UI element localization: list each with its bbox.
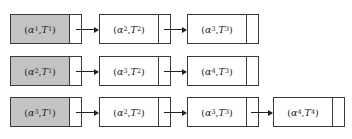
row1-node2: (α2,T2) [99,14,171,44]
row1-node3: (α3,T3) [187,14,259,44]
arrow-icon [76,71,98,72]
node-data: (α2,T1) [11,57,70,85]
node-data: (α2,T2) [100,98,159,126]
node-pointer-field [333,98,344,126]
node-data: (α3,T3) [188,98,247,126]
node-data: (α3,T2) [100,57,159,85]
arrow-icon [251,112,272,113]
row3-node3: (α3,T3) [187,97,259,127]
node-data: (α4,T3) [188,57,247,85]
node-pointer-field [247,57,258,85]
row3-node2: (α2,T2) [99,97,171,127]
arrow-icon [164,29,186,30]
node-pointer-field [247,15,258,43]
row3-node4: (α4,T4) [273,97,345,127]
node-data: (α3,T1) [11,98,70,126]
arrow-icon [76,29,98,30]
arrow-icon [164,112,186,113]
row2-node3: (α4,T3) [187,56,259,86]
arrow-icon [76,112,98,113]
row3-node1-head: (α3,T1) [10,97,82,127]
node-data: (α4,T4) [274,98,333,126]
row2-node2: (α3,T2) [99,56,171,86]
node-data: (α1,T1) [11,15,70,43]
row1-node1-head: (α1,T1) [10,14,82,44]
arrow-icon [164,71,186,72]
node-data: (α2,T2) [100,15,159,43]
node-data: (α3,T3) [188,15,247,43]
row2-node1-head: (α2,T1) [10,56,82,86]
